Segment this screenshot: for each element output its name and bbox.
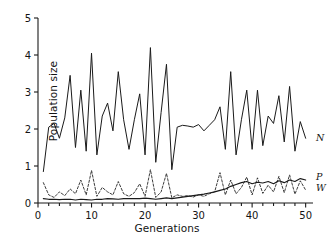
x-axis: 01020304050 (35, 203, 313, 221)
y-tick-label-0: 0 (25, 198, 31, 209)
x-tick-label-10: 10 (85, 210, 98, 221)
y-tick-label-3: 3 (25, 87, 31, 98)
y-axis-title-wrapper: Population size (42, 0, 58, 203)
x-tick-label-40: 40 (246, 210, 259, 221)
series-line-n (43, 48, 305, 172)
x-tick-label-0: 0 (35, 210, 41, 221)
x-tick-label-30: 30 (192, 210, 205, 221)
y-axis: 012345 (25, 13, 38, 209)
series-line-w (43, 170, 305, 198)
population-dynamics-chart: 012345 01020304050 NPW Population size G… (0, 0, 334, 241)
series-inline-labels: NPW (315, 132, 327, 193)
x-tick-label-50: 50 (299, 210, 312, 221)
data-series-group (43, 48, 305, 200)
y-tick-label-5: 5 (25, 13, 31, 24)
series-label-p: P (315, 171, 323, 182)
y-axis-title: Population size (47, 61, 59, 141)
y-tick-label-2: 2 (25, 124, 31, 135)
x-axis-title: Generations (0, 222, 334, 234)
x-tick-label-20: 20 (139, 210, 152, 221)
series-label-w: W (316, 182, 327, 193)
series-label-n: N (315, 132, 325, 143)
y-tick-label-4: 4 (25, 50, 31, 61)
y-tick-label-1: 1 (25, 161, 31, 172)
